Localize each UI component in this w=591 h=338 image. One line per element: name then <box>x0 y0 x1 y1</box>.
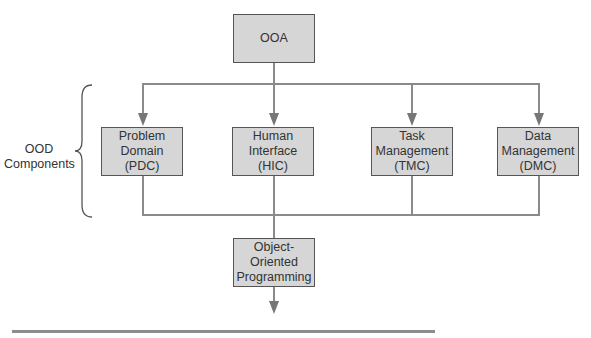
rise-pdc <box>142 176 144 216</box>
rise-hic <box>273 176 275 238</box>
connector-ooa-down <box>273 63 275 85</box>
pdc-box: Problem Domain (PDC) <box>101 127 183 176</box>
oop-label: Object- Oriented Programming <box>236 240 311 285</box>
drop-tmc <box>411 83 413 115</box>
bottom-rule <box>12 330 435 333</box>
arrow-down-icon <box>138 113 148 126</box>
rise-dmc <box>538 176 540 216</box>
tmc-label: Task Management (TMC) <box>376 129 449 174</box>
dmc-label: Data Management (DMC) <box>502 129 575 174</box>
ooa-box: OOA <box>233 14 315 63</box>
hic-label: Human Interface (HIC) <box>249 129 298 174</box>
bottom-bus-line <box>143 214 540 216</box>
drop-dmc <box>538 83 540 115</box>
rise-tmc <box>411 176 413 216</box>
arrow-down-icon <box>269 113 279 126</box>
arrow-down-icon <box>269 301 279 314</box>
pdc-label: Problem Domain (PDC) <box>119 129 166 174</box>
oop-box: Object- Oriented Programming <box>233 238 315 287</box>
brace-icon <box>72 83 94 219</box>
top-bus-line <box>143 83 540 85</box>
arrow-down-icon <box>534 113 544 126</box>
hic-box: Human Interface (HIC) <box>232 127 314 176</box>
ooa-label: OOA <box>260 31 288 46</box>
ood-components-label: OOD Components <box>4 142 74 172</box>
drop-hic <box>273 83 275 115</box>
tmc-box: Task Management (TMC) <box>371 127 453 176</box>
drop-pdc <box>142 83 144 115</box>
dmc-box: Data Management (DMC) <box>497 127 579 176</box>
arrow-down-icon <box>407 113 417 126</box>
